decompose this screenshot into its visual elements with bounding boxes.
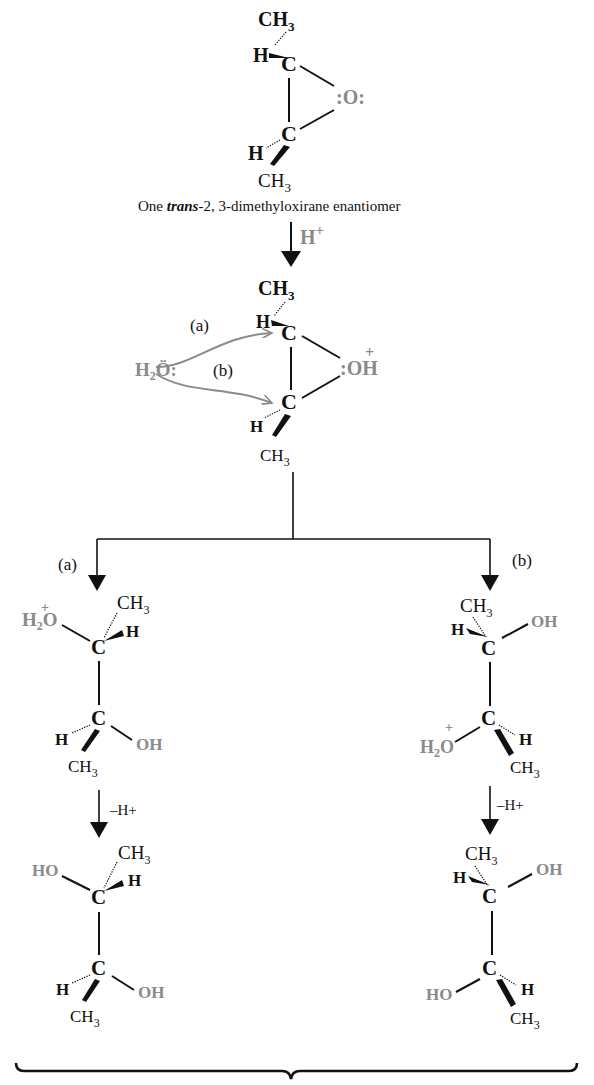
branch-connector: (a) (b) [58, 472, 532, 591]
svg-text:CH3: CH3 [70, 1007, 100, 1030]
svg-text:–H+: –H+ [496, 797, 524, 813]
svg-text:CH3: CH3 [118, 842, 150, 867]
epoxide-oxygen: :O: [336, 86, 365, 108]
svg-text:C: C [91, 885, 106, 909]
methyl-top: CH3 [258, 8, 295, 34]
svg-text:H: H [519, 730, 532, 749]
svg-text:(a): (a) [58, 555, 77, 574]
svg-text:+: + [445, 720, 453, 735]
svg-text:C: C [481, 706, 496, 730]
svg-text:C: C [281, 320, 297, 345]
product-b-diol: CH3 H OH C C H HO CH3 [426, 843, 562, 1032]
svg-text:H: H [253, 44, 269, 66]
svg-text:H: H [250, 417, 263, 436]
svg-text:CH3: CH3 [68, 757, 98, 780]
svg-text:H+: H+ [300, 222, 324, 248]
svg-text:C: C [482, 956, 497, 980]
starting-epoxide: CH3 H C :O: C H CH3 [248, 8, 365, 195]
acid-arrow: H+ [281, 222, 324, 267]
svg-text:C: C [91, 635, 106, 659]
reaction-scheme: CH3 H C :O: C H CH3 One trans-2, 3-dimet… [0, 0, 594, 1085]
svg-text:OH: OH [136, 735, 162, 754]
deprotonation-arrow-a: –H+ [90, 790, 137, 838]
svg-text:(b): (b) [512, 551, 532, 570]
carbon-bottom: C [281, 121, 297, 146]
carbon-top: C [281, 51, 297, 76]
svg-text:HO: HO [32, 861, 58, 880]
svg-text:CH3: CH3 [258, 277, 295, 303]
svg-text:(a): (a) [190, 316, 209, 335]
svg-text:+: + [365, 344, 374, 361]
svg-text:OH: OH [138, 983, 164, 1002]
svg-text:CH3: CH3 [117, 592, 149, 617]
deprotonation-arrow-b: –H+ [481, 786, 524, 835]
svg-text:H: H [55, 730, 68, 749]
branch-b-intermediate: CH3 H OH C C H + H2O CH3 [420, 595, 557, 781]
svg-text:CH3: CH3 [510, 1009, 540, 1032]
svg-text:OH: OH [531, 612, 557, 631]
svg-text:C: C [91, 956, 106, 980]
svg-text:CH3: CH3 [460, 595, 492, 620]
svg-text:–H+: –H+ [109, 802, 137, 818]
svg-text:C: C [482, 884, 497, 908]
svg-text:C: C [91, 706, 106, 730]
branch-a-intermediate: + H2O CH3 H C C H OH CH3 [22, 592, 162, 780]
svg-text:H2O: H2O [420, 737, 454, 760]
svg-text:C: C [281, 389, 297, 414]
svg-text:H: H [248, 142, 264, 164]
svg-text:H: H [521, 980, 534, 999]
svg-text:CH3: CH3 [260, 446, 290, 469]
starting-material-caption: One trans-2, 3-dimethyloxirane enantiome… [138, 198, 400, 214]
protonated-epoxide: CH3 H C :OH + C H CH3 H2Ö: (a) (b) [135, 277, 378, 469]
svg-text:CH3: CH3 [465, 843, 497, 868]
svg-text:CH3: CH3 [510, 758, 540, 781]
svg-text:H: H [256, 312, 270, 332]
svg-text:H2O: H2O [22, 609, 58, 633]
svg-text:(b): (b) [213, 361, 233, 380]
product-a-diol: CH3 HO H C C H OH CH3 [32, 842, 164, 1030]
product-brace [16, 1063, 577, 1079]
svg-text:CH3: CH3 [258, 170, 291, 195]
svg-text:H: H [128, 871, 141, 890]
svg-text:H: H [453, 868, 466, 887]
svg-text:H: H [126, 622, 139, 641]
svg-text:H: H [451, 620, 464, 639]
svg-text:H: H [56, 980, 69, 999]
svg-text:OH: OH [536, 860, 562, 879]
water-nucleophile: H2Ö: [135, 359, 177, 383]
svg-text:HO: HO [426, 985, 452, 1004]
svg-text:C: C [481, 636, 496, 660]
